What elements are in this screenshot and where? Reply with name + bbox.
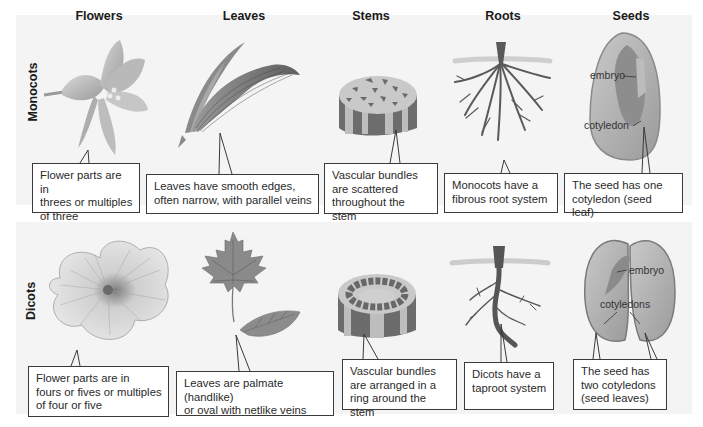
five-petal-flower-icon	[50, 241, 169, 339]
ring-bundle-stem-icon	[338, 274, 416, 338]
dicot-stems-callout: Vascular bundles are arranged in a ring …	[342, 359, 457, 410]
fibrous-root-icon	[455, 42, 550, 140]
one-cotyledon-seed-icon	[590, 33, 660, 160]
dicot-roots-callout: Dicots have a taproot system	[464, 362, 554, 410]
maple-and-oval-leaf-icon	[202, 232, 300, 336]
dicot-leaves-callout: Leaves are palmate (handlike) or oval wi…	[176, 371, 334, 416]
monocot-roots-callout: Monocots have a fibrous root system	[444, 173, 558, 213]
monocot-flowers-callout: Flower parts are in threes or multiples …	[32, 163, 140, 213]
dicot-cotyledons-label: cotyledons	[600, 298, 650, 310]
dicot-flowers-callout: Flower parts are in fours or fives or mu…	[28, 366, 169, 417]
parallel-vein-leaf-icon	[178, 42, 300, 148]
two-cotyledon-seed-icon	[585, 240, 675, 341]
monocot-leaves-callout: Leaves have smooth edges, often narrow, …	[146, 174, 319, 214]
scattered-bundle-stem-icon	[339, 76, 417, 136]
monocot-embryo-label: embryo	[590, 69, 625, 81]
dicot-seeds-callout: The seed has two cotyledons (seed leaves…	[573, 359, 667, 410]
monocot-seeds-callout: The seed has one cotyledon (seed leaf)	[564, 173, 683, 213]
lily-flower-icon	[44, 40, 148, 155]
monocot-stems-callout: Vascular bundles are scattered throughou…	[324, 163, 438, 214]
taproot-icon	[452, 246, 548, 345]
monocot-cotyledon-label: cotyledon	[584, 119, 629, 131]
dicot-embryo-label: embryo	[629, 264, 664, 276]
